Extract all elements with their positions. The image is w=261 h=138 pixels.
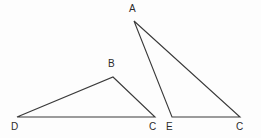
vertex-label-e: E: [166, 122, 173, 132]
triangle-aec-outline: [134, 21, 240, 117]
left-triangle-group: [17, 77, 155, 117]
vertex-label-b: B: [108, 59, 115, 69]
geometry-drawing: [0, 0, 261, 138]
geometry-figure-canvas: D B C A E C: [0, 0, 261, 138]
right-triangle-group: [134, 21, 240, 117]
vertex-label-a: A: [129, 4, 136, 14]
vertex-label-c-right: C: [236, 122, 243, 132]
vertex-label-c-left: C: [149, 122, 156, 132]
vertex-label-d: D: [11, 122, 18, 132]
triangle-dbc-outline: [17, 77, 155, 117]
